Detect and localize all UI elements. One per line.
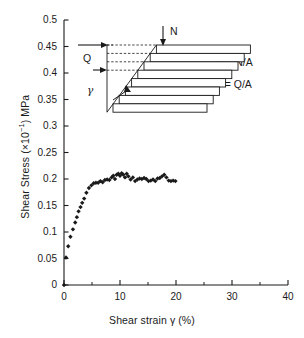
data-point-marker xyxy=(84,191,88,195)
data-point-marker xyxy=(71,227,75,231)
inset-plate xyxy=(138,70,232,78)
data-point-marker xyxy=(75,215,79,219)
inset-plate xyxy=(113,104,207,112)
inset-plate xyxy=(144,62,238,70)
data-series-group xyxy=(62,171,178,287)
inset-plate xyxy=(150,53,244,61)
data-point-marker xyxy=(73,220,77,224)
data-point-marker xyxy=(78,205,82,209)
inset-plate xyxy=(156,45,250,53)
inset-plate xyxy=(132,79,226,87)
data-point-marker xyxy=(68,235,72,239)
data-point-marker xyxy=(76,209,80,213)
inset-plate xyxy=(119,95,213,103)
data-point-marker xyxy=(82,196,86,200)
inset-shear-diagram xyxy=(78,26,250,112)
shear-stress-strain-chart: Shear Stress (×10−1) MPa Shear strain γ … xyxy=(0,0,304,338)
data-point-marker xyxy=(80,201,84,205)
data-point-marker xyxy=(62,283,66,287)
inset-offset-arrow-head xyxy=(100,67,107,73)
plot-surface xyxy=(0,0,304,338)
data-point-marker xyxy=(66,244,70,248)
inset-plate xyxy=(125,87,219,95)
